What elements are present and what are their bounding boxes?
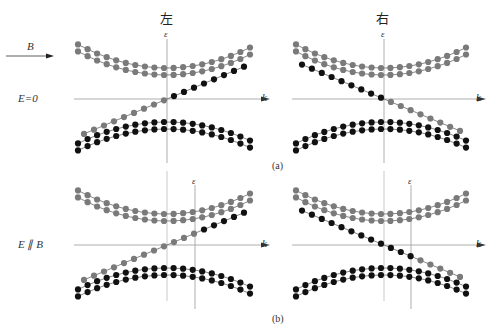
chiral-dot	[81, 277, 87, 283]
chiral-dot	[368, 91, 374, 97]
band-dot	[218, 273, 224, 279]
band-dot	[312, 278, 318, 284]
band-dot	[293, 41, 299, 47]
chiral-dot	[111, 118, 117, 124]
band-dot	[123, 60, 129, 66]
band-dot	[463, 190, 469, 196]
epsilon-label-b-left: ε	[192, 176, 196, 186]
chiral-dot	[417, 111, 423, 117]
band-dot	[406, 274, 412, 280]
band-dot	[302, 282, 308, 288]
band-dot	[113, 203, 119, 209]
chiral-dot	[378, 95, 384, 101]
band-dot	[397, 127, 403, 133]
arrowhead-icon	[46, 54, 54, 59]
chiral-dot	[161, 97, 167, 103]
band-dot	[406, 128, 412, 134]
chiral-dot	[348, 82, 354, 88]
band-dot	[75, 293, 81, 299]
band-dot	[151, 64, 157, 70]
band-dot	[340, 206, 346, 212]
band-dot	[293, 187, 299, 193]
band-dot	[444, 137, 450, 143]
band-dot	[435, 273, 441, 279]
band-dot	[454, 49, 460, 55]
band-dot	[387, 65, 393, 71]
band-dot	[104, 200, 110, 206]
band-dot	[132, 275, 138, 281]
band-dot	[151, 265, 157, 271]
band-dot	[161, 119, 167, 125]
chiral-dot	[91, 127, 97, 133]
landau-level-diagram	[0, 0, 490, 330]
band-dot	[454, 195, 460, 201]
band-dot	[293, 140, 299, 146]
band-dot	[199, 214, 205, 220]
band-dot	[387, 119, 393, 125]
band-dot	[190, 128, 196, 134]
chiral-dot	[358, 86, 364, 92]
band-dot	[397, 210, 403, 216]
band-dot	[340, 124, 346, 130]
band-dot	[237, 195, 243, 201]
band-dot	[75, 140, 81, 146]
band-dot	[369, 64, 375, 70]
band-dot	[85, 46, 91, 52]
band-dot	[171, 272, 177, 278]
band-dot	[369, 71, 375, 77]
band-dot	[463, 51, 469, 57]
band-dot	[302, 192, 308, 198]
band-dot	[104, 136, 110, 142]
band-dot	[340, 213, 346, 219]
band-dot	[142, 70, 148, 76]
band-dot	[171, 218, 177, 224]
band-dot	[378, 119, 384, 125]
band-dot	[123, 67, 129, 73]
band-dot	[142, 209, 148, 215]
band-dot	[331, 64, 337, 70]
chiral-dot	[131, 110, 137, 116]
chiral-dot	[437, 120, 443, 126]
band-dot	[293, 286, 299, 292]
band-dot	[463, 291, 469, 297]
band-dot	[113, 279, 119, 285]
band-dot	[331, 210, 337, 216]
band-dot	[75, 286, 81, 292]
chiral-dot	[81, 131, 87, 137]
band-dot	[359, 70, 365, 76]
band-dot	[397, 266, 403, 272]
band-dot	[85, 143, 91, 149]
band-dot	[132, 129, 138, 135]
band-dot	[435, 202, 441, 208]
band-dot	[228, 199, 234, 205]
band-dot	[425, 59, 431, 65]
band-dot	[435, 280, 441, 286]
band-dot	[463, 197, 469, 203]
band-dot	[151, 272, 157, 278]
band-dot	[209, 131, 215, 137]
band-dot	[340, 60, 346, 66]
band-dot	[180, 273, 186, 279]
chiral-dot	[221, 72, 227, 78]
band-dot	[454, 287, 460, 293]
band-dot	[302, 136, 308, 142]
band-dot	[190, 274, 196, 280]
band-dot	[369, 119, 375, 125]
band-dot	[85, 53, 91, 59]
band-dot	[247, 190, 253, 196]
band-dot	[387, 265, 393, 271]
band-dot	[312, 203, 318, 209]
band-dot	[247, 145, 253, 151]
band-dot	[113, 272, 119, 278]
band-dot	[425, 205, 431, 211]
band-dot	[161, 218, 167, 224]
band-dot	[199, 275, 205, 281]
band-dot	[340, 67, 346, 73]
band-dot	[397, 71, 403, 77]
band-dot	[94, 203, 100, 209]
band-dot	[406, 216, 412, 222]
chiral-dot	[181, 235, 187, 241]
chiral-dot	[309, 212, 315, 218]
band-dot	[94, 139, 100, 145]
band-dot	[199, 68, 205, 74]
